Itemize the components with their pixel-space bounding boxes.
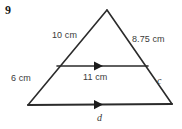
triangle-left-side — [28, 10, 107, 105]
label-midsegment-length: 11 cm — [83, 73, 107, 82]
triangle-diagram-svg — [0, 0, 182, 129]
label-right-side-length: 8.75 cm — [132, 35, 165, 44]
label-lower-left-length: 6 cm — [11, 74, 31, 83]
label-unknown-d: d — [97, 113, 102, 123]
label-left-side-length: 10 cm — [52, 31, 77, 40]
triangle-right-side — [107, 10, 172, 104]
parallel-arrow-marker-midsegment — [94, 62, 103, 71]
label-unknown-c: c — [157, 76, 162, 86]
parallel-arrow-marker-base — [94, 100, 103, 109]
geometry-figure-container: 9 10 cm 8.75 cm 6 cm 11 cm c d — [0, 0, 182, 129]
